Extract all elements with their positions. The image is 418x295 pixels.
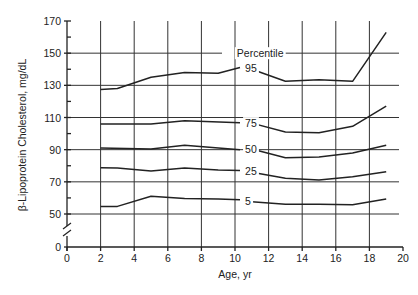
percentile-75-label: 75 — [245, 117, 257, 129]
percentile-25-line — [252, 172, 386, 180]
x-tick-label: 16 — [330, 252, 342, 264]
grid-lines — [67, 21, 399, 247]
x-axis-title: Age, yr — [218, 268, 252, 280]
y-tick-label: 50 — [49, 208, 61, 220]
percentile-5-line — [252, 199, 386, 205]
percentile-50-line — [101, 145, 240, 150]
y-tick-label: 90 — [49, 144, 61, 156]
x-tick-label: 20 — [397, 252, 409, 264]
y-tick-label: 170 — [43, 15, 61, 27]
x-tick-label: 12 — [263, 252, 275, 264]
x-tick-label: 14 — [296, 252, 308, 264]
percentile-75-line — [252, 106, 386, 133]
y-tick-label: 70 — [49, 176, 61, 188]
x-tick-label: 6 — [165, 252, 171, 264]
x-tick-label: 10 — [229, 252, 241, 264]
percentile-5-line — [101, 196, 240, 206]
axes: 050709011013015017002468101214161820 — [43, 15, 409, 264]
y-tick-label: 130 — [43, 79, 61, 91]
curve-labels: Percentile957550255 — [235, 47, 286, 207]
x-tick-label: 2 — [98, 252, 104, 264]
x-tick-label: 8 — [198, 252, 204, 264]
y-tick-label: 0 — [55, 241, 61, 253]
y-tick-label: 110 — [44, 112, 61, 124]
percentile-line-chart: 050709011013015017002468101214161820 Per… — [0, 0, 418, 295]
percentile-25-line — [101, 168, 240, 171]
percentile-25-label: 25 — [245, 165, 257, 177]
percentile-95-label: 95 — [245, 62, 257, 74]
y-tick-label: 150 — [43, 47, 61, 59]
x-tick-label: 0 — [64, 252, 70, 264]
y-axis-title: β-Lipoprotein Cholesterol, mg/dL — [16, 59, 28, 212]
percentile-75-line — [101, 121, 240, 124]
percentile-50-label: 50 — [245, 143, 257, 155]
legend-title: Percentile — [237, 47, 284, 59]
percentile-95-line — [101, 68, 240, 90]
percentile-50-line — [252, 145, 386, 158]
percentile-5-label: 5 — [245, 195, 251, 207]
x-tick-label: 18 — [364, 252, 376, 264]
x-tick-label: 4 — [131, 252, 137, 264]
